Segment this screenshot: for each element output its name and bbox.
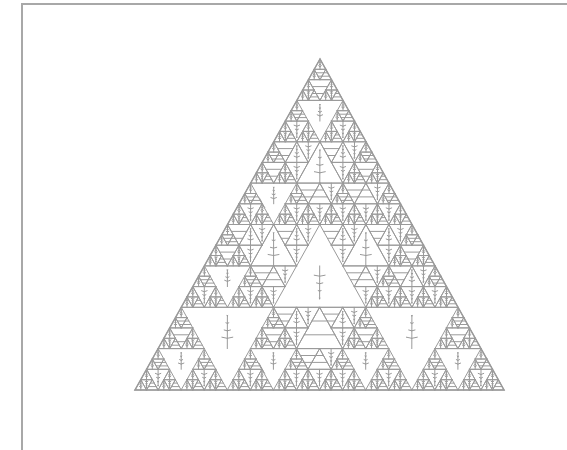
fractal-pattern [135,59,504,390]
fractal-lines [135,59,504,390]
fractal-triangle-figure [0,0,567,450]
